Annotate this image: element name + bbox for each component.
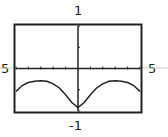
plot-area (0, 0, 168, 137)
